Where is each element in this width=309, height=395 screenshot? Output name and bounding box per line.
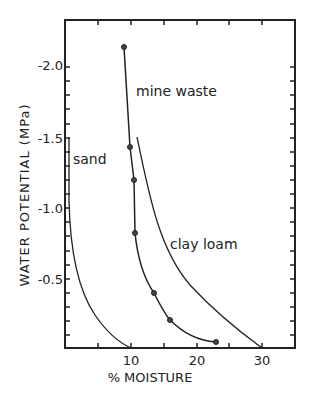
x-ticks xyxy=(98,20,262,348)
y-tick-15: -1.5 xyxy=(38,131,63,146)
plot-frame xyxy=(65,20,295,348)
label-sand: sand xyxy=(73,151,107,167)
sand-curve xyxy=(69,137,131,348)
x-tick-30: 30 xyxy=(254,353,271,368)
x-tick-10: 10 xyxy=(123,353,140,368)
chart: 10 20 30 -0.5 -1.0 -1.5 -2.0 % MOISTURE … xyxy=(0,0,309,395)
label-mine-waste: mine waste xyxy=(136,83,217,99)
x-tick-20: 20 xyxy=(189,353,206,368)
y-axis-label: WATER POTENTIAL (MPa) xyxy=(17,104,32,287)
x-axis-label: % MOISTURE xyxy=(108,370,193,385)
y-tick-10: -1.0 xyxy=(38,201,63,216)
y-ticks xyxy=(65,67,295,335)
y-tick-20: -2.0 xyxy=(38,58,63,73)
label-clay-loam: clay loam xyxy=(170,236,238,252)
y-tick-05: -0.5 xyxy=(38,272,63,287)
